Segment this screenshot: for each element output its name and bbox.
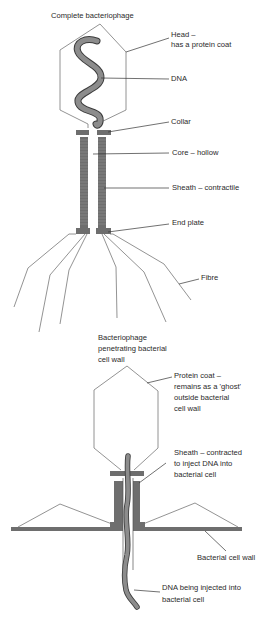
title-penetrating-line3: cell wall xyxy=(98,354,125,366)
label-sheath-contracted-line3: bacterial cell xyxy=(174,469,216,481)
title-penetrating-line2: penetrating bacterial xyxy=(98,343,167,355)
label-protein-coat-line2: remains as a 'ghost' xyxy=(174,381,241,393)
sheath-left xyxy=(80,137,88,228)
end-plate-left xyxy=(76,228,90,234)
label-protein-coat-line1: Protein coat – xyxy=(174,370,221,382)
label-dna: DNA xyxy=(171,73,187,85)
label-sheath-contracted-line2: to inject DNA into xyxy=(174,458,232,470)
complete-phage xyxy=(14,24,199,332)
label-sheath-contracted-line1: Sheath – contracted xyxy=(174,447,242,459)
label-dna-injected-line2: bacterial cell xyxy=(162,594,204,606)
collar-left xyxy=(76,130,89,135)
collar-right xyxy=(97,130,111,135)
label-end-plate: End plate xyxy=(172,217,204,229)
label-head-line2: has a protein coat xyxy=(171,39,231,51)
sheath-right xyxy=(98,137,106,228)
title-penetrating-line1: Bacteriophage xyxy=(98,332,147,344)
label-fibre: Fibre xyxy=(201,272,218,284)
label-dna-injected-line1: DNA being injected into xyxy=(162,582,241,594)
label-protein-coat-line3: outside bacterial xyxy=(174,392,229,404)
bacteriophage-diagram xyxy=(0,0,273,620)
end-plate-right xyxy=(96,228,111,234)
tail-fibres xyxy=(14,234,191,332)
label-bacterial-cell-wall: Bacterial cell wall xyxy=(197,552,255,564)
label-sheath: Sheath – contractile xyxy=(172,182,239,194)
label-core: Core – hollow xyxy=(172,147,218,159)
label-collar: Collar xyxy=(171,116,191,128)
title-complete-phage: Complete bacteriophage xyxy=(51,10,134,22)
label-protein-coat-line4: cell wall xyxy=(174,403,201,415)
